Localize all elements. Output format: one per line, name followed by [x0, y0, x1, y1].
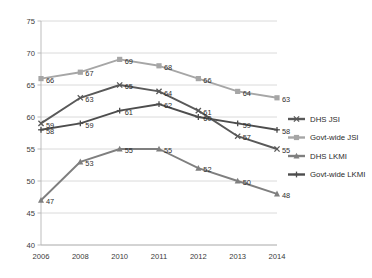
legend-item-label: Govt-wide LKMI [310, 170, 365, 179]
marker-square [117, 57, 122, 62]
point-label: 50 [243, 178, 251, 187]
marker-plus [156, 101, 162, 107]
marker-square [235, 89, 240, 94]
point-label: 66 [203, 76, 211, 85]
marker-plus [117, 108, 123, 114]
y-tick-label: 50 [27, 177, 35, 186]
x-tick-label: 2014 [269, 252, 286, 261]
point-label: 64 [164, 89, 172, 98]
point-label: 64 [243, 89, 251, 98]
chart-legend: DHS JSIGovt-wide JSIDHS LKMIGovt-wide LK… [288, 115, 365, 180]
x-tick-label: 2010 [111, 252, 128, 261]
legend-item-label: DHS JSI [310, 115, 340, 124]
point-label: 63 [282, 95, 290, 104]
y-tick-label: 45 [27, 209, 35, 218]
y-axis-tick-labels: 4045505560657075 [27, 17, 35, 250]
point-label: 48 [282, 191, 290, 200]
x-tick-label: 2012 [190, 252, 207, 261]
point-label: 52 [203, 165, 211, 174]
y-tick-label: 70 [27, 49, 35, 58]
marker-plus [77, 121, 83, 127]
y-tick-label: 60 [27, 113, 35, 122]
point-label: 59 [243, 121, 251, 130]
legend-item-govt-wide-lkmi[interactable]: Govt-wide LKMI [288, 170, 365, 179]
x-tick-label: 2013 [229, 252, 246, 261]
point-label: 60 [203, 114, 211, 123]
point-label: 55 [164, 146, 172, 155]
marker-plus [274, 127, 280, 133]
x-tick-label: 2011 [151, 252, 167, 261]
marker-square [294, 135, 299, 140]
point-label: 59 [85, 121, 93, 130]
point-label: 58 [282, 127, 290, 136]
marker-plus [294, 172, 300, 178]
marker-square [274, 95, 279, 100]
marker-square [196, 76, 201, 81]
y-tick-label: 40 [27, 241, 35, 250]
point-label: 58 [46, 127, 54, 136]
y-tick-label: 65 [27, 81, 35, 90]
x-axis-tick-labels: 2006200820102011201220132014 [33, 252, 286, 261]
legend-item-dhs-jsi[interactable]: DHS JSI [288, 115, 340, 124]
series-line [41, 149, 277, 200]
axes [38, 21, 278, 245]
point-label: 55 [282, 146, 290, 155]
point-label: 67 [85, 69, 93, 78]
legend-item-dhs-lkmi[interactable]: DHS LKMI [288, 152, 347, 161]
gridlines [41, 21, 277, 245]
point-label: 65 [125, 82, 133, 91]
chart-canvas: 4045505560657075 20062008201020112012201… [0, 0, 372, 278]
series-dhs-lkmi [38, 146, 280, 203]
marker-square [156, 63, 161, 68]
x-tick-label: 2008 [72, 252, 89, 261]
marker-plus [195, 114, 201, 120]
legend-item-label: Govt-wide JSI [310, 133, 359, 142]
marker-square [38, 76, 43, 81]
point-label: 47 [46, 197, 54, 206]
legend-item-label: DHS LKMI [310, 152, 347, 161]
point-label: 53 [85, 159, 93, 168]
line-chart: 4045505560657075 20062008201020112012201… [0, 0, 372, 278]
y-tick-label: 75 [27, 17, 35, 26]
y-tick-label: 55 [27, 145, 35, 154]
legend-item-govt-wide-jsi[interactable]: Govt-wide JSI [288, 133, 359, 142]
marker-plus [38, 127, 44, 133]
point-label: 63 [85, 95, 93, 104]
x-tick-label: 2006 [33, 252, 50, 261]
point-label: 66 [46, 76, 54, 85]
marker-plus [235, 121, 241, 127]
point-label: 55 [125, 146, 133, 155]
data-point-labels: 5963656461575566676968666463475355555250… [46, 57, 290, 207]
point-label: 62 [164, 101, 172, 110]
point-label: 57 [243, 133, 251, 142]
point-label: 61 [125, 108, 133, 117]
marker-square [78, 70, 83, 75]
point-label: 68 [164, 63, 172, 72]
point-label: 69 [125, 57, 133, 66]
